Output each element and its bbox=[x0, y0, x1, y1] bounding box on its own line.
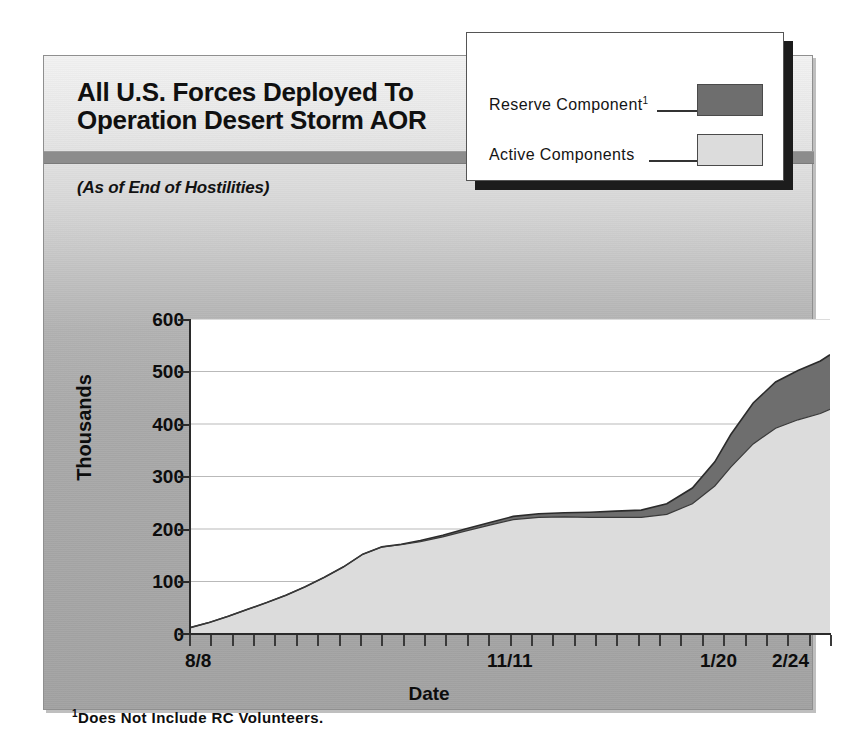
y-tick-mark-100 bbox=[178, 581, 189, 583]
x-tick-25 bbox=[723, 635, 725, 646]
y-tick-label-500: 500 bbox=[114, 361, 184, 383]
footnote-text: Does Not Include RC Volunteers. bbox=[78, 709, 324, 726]
x-tick-6 bbox=[317, 635, 319, 646]
x-tick-29 bbox=[809, 635, 811, 646]
x-tick-28 bbox=[787, 635, 789, 646]
y-tick-mark-300 bbox=[178, 476, 189, 478]
legend-item-active-components[interactable]: Active Components bbox=[489, 122, 767, 168]
x-tick-27 bbox=[766, 635, 768, 646]
x-tick-22 bbox=[659, 635, 661, 646]
x-tick-11 bbox=[424, 635, 426, 646]
x-tick-14 bbox=[488, 635, 490, 646]
plot-area bbox=[190, 319, 830, 634]
x-axis-tick-marks bbox=[44, 635, 814, 649]
y-tick-label-300: 300 bbox=[114, 466, 184, 488]
x-tick-8 bbox=[360, 635, 362, 646]
x-axis-title: Date bbox=[44, 683, 814, 705]
x-tick-20 bbox=[616, 635, 618, 646]
x-tick-2 bbox=[232, 635, 234, 646]
y-tick-mark-200 bbox=[178, 529, 189, 531]
x-tick-12 bbox=[445, 635, 447, 646]
y-axis-tick-labels: 600 500 400 300 200 100 0 bbox=[100, 56, 184, 711]
y-tick-label-200: 200 bbox=[114, 519, 184, 541]
x-tick-3 bbox=[253, 635, 255, 646]
legend: Reserve Component1 Active Components bbox=[466, 32, 784, 181]
y-tick-label-400: 400 bbox=[114, 414, 184, 436]
area-chart-svg bbox=[190, 319, 830, 634]
y-tick-label-100: 100 bbox=[114, 571, 184, 593]
x-tick-19 bbox=[595, 635, 597, 646]
x-tick-17 bbox=[552, 635, 554, 646]
legend-label-active-components: Active Components bbox=[489, 146, 635, 164]
x-tick-9 bbox=[381, 635, 383, 646]
x-tick-15 bbox=[510, 635, 512, 646]
legend-item-reserve-component[interactable]: Reserve Component1 bbox=[489, 72, 767, 118]
x-tick-26 bbox=[745, 635, 747, 646]
legend-swatch-active-components bbox=[697, 134, 763, 166]
x-axis-tick-labels: 8/8 11/11 1/20 2/24 bbox=[44, 650, 814, 676]
legend-box: Reserve Component1 Active Components bbox=[466, 32, 784, 181]
x-tick-18 bbox=[574, 635, 576, 646]
x-tick-0 bbox=[189, 635, 191, 646]
y-tick-mark-400 bbox=[178, 424, 189, 426]
x-tick-13 bbox=[467, 635, 469, 646]
y-axis-title: Thousands bbox=[73, 343, 96, 513]
x-tick-30 bbox=[830, 635, 832, 646]
x-tick-label-late: 1/20 bbox=[700, 650, 737, 672]
x-tick-10 bbox=[403, 635, 405, 646]
x-tick-4 bbox=[274, 635, 276, 646]
y-tick-mark-500 bbox=[178, 371, 189, 373]
x-tick-23 bbox=[680, 635, 682, 646]
x-tick-21 bbox=[638, 635, 640, 646]
y-axis-line bbox=[189, 319, 191, 636]
x-tick-7 bbox=[339, 635, 341, 646]
screenshot-root: All U.S. Forces Deployed To Operation De… bbox=[0, 0, 856, 744]
legend-label-reserve-component: Reserve Component1 bbox=[489, 96, 649, 114]
x-tick-label-start: 8/8 bbox=[185, 650, 211, 672]
x-tick-label-mid: 11/11 bbox=[487, 650, 532, 672]
x-tick-5 bbox=[296, 635, 298, 646]
legend-swatch-reserve-component bbox=[697, 84, 763, 116]
footnote: 1Does Not Include RC Volunteers. bbox=[72, 709, 323, 726]
x-tick-24 bbox=[702, 635, 704, 646]
y-tick-mark-600 bbox=[178, 319, 189, 321]
x-tick-16 bbox=[531, 635, 533, 646]
x-tick-1 bbox=[210, 635, 212, 646]
y-tick-label-600: 600 bbox=[114, 309, 184, 331]
x-tick-label-end: 2/24 bbox=[772, 650, 809, 672]
